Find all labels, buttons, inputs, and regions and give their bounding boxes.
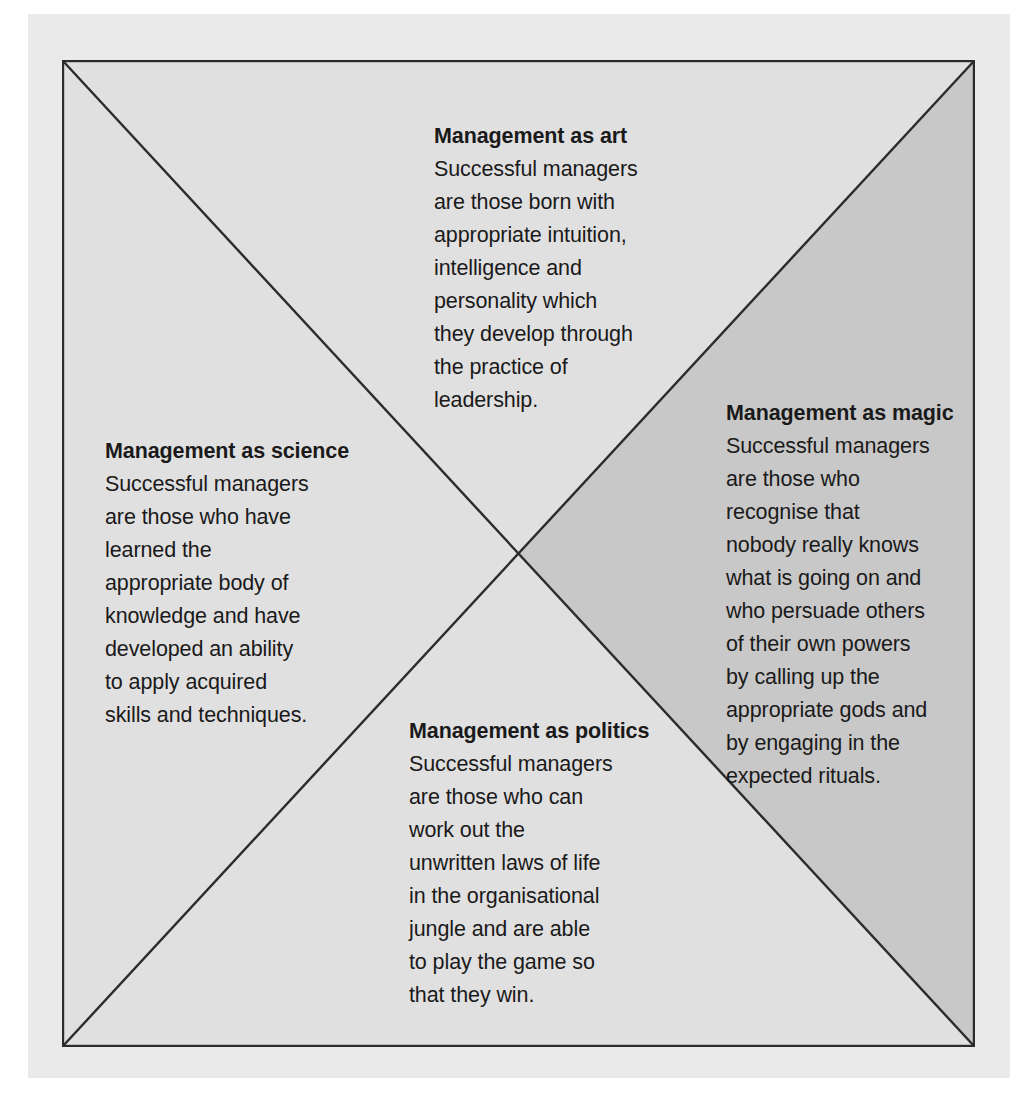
figure-page: Management as art Successful managers ar… [0, 0, 1028, 1102]
text-block-management-as-art: Management as art Successful managers ar… [434, 120, 734, 417]
body-management-as-science: Successful managers are those who have l… [105, 468, 405, 732]
heading-management-as-science: Management as science [105, 435, 405, 468]
text-block-management-as-science: Management as science Successful manager… [105, 435, 405, 732]
text-block-management-as-politics: Management as politics Successful manage… [409, 715, 709, 1012]
text-block-management-as-magic: Management as magic Successful managers … [726, 397, 1006, 793]
body-management-as-art: Successful managers are those born with … [434, 153, 734, 417]
heading-management-as-politics: Management as politics [409, 715, 709, 748]
body-management-as-magic: Successful managers are those who recogn… [726, 430, 1006, 793]
heading-management-as-magic: Management as magic [726, 397, 1006, 430]
body-management-as-politics: Successful managers are those who can wo… [409, 748, 709, 1012]
heading-management-as-art: Management as art [434, 120, 734, 153]
